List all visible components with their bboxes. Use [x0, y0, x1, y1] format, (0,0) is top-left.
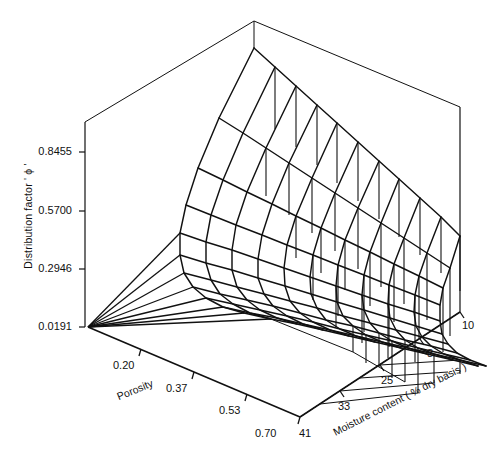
y-tick-label-2: 25 [381, 374, 393, 386]
y-tick-label-1: 33 [338, 400, 350, 412]
z-tick-label-2: 0.2946 [14, 262, 72, 274]
vertical-drop-lines [266, 67, 460, 393]
base-plane-grid [271, 312, 460, 417]
z-tick-label-1: 0.5700 [14, 204, 72, 216]
x-tick-label-2: 0.53 [219, 404, 240, 416]
x-tick-label-0: 0.20 [113, 359, 134, 371]
x-tick-label-1: 0.37 [166, 382, 187, 394]
surface-plot-figure: Distribution factor ' ϕ ' 0.8455 0.5700 … [0, 0, 489, 461]
z-tick-label-3: 0.0191 [14, 320, 72, 332]
y-tick-label-0: 41 [299, 427, 311, 439]
y-tick-label-3: 8 [427, 347, 433, 359]
y-tick-label-4: 10 [462, 319, 474, 331]
z-tick-label-0: 0.8455 [14, 145, 72, 157]
z-axis-ticks [79, 152, 85, 327]
x-tick-label-3: 0.70 [255, 427, 276, 439]
surface-wireframe-mesh [180, 48, 486, 366]
